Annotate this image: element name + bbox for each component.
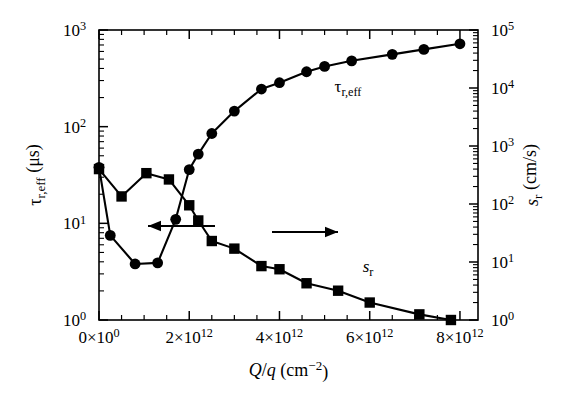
data-point-tau-9 bbox=[256, 84, 267, 95]
data-point-tau-15 bbox=[418, 44, 429, 55]
data-point-sr-6 bbox=[207, 236, 217, 246]
data-point-sr-1 bbox=[116, 191, 126, 201]
data-point-sr-12 bbox=[365, 297, 375, 307]
data-point-tau-16 bbox=[455, 38, 466, 49]
data-point-tau-2 bbox=[130, 259, 141, 270]
x-tick-label-0: 0×100 bbox=[78, 326, 119, 347]
data-point-tau-5 bbox=[184, 164, 195, 175]
data-point-sr-10 bbox=[301, 278, 311, 288]
data-point-tau-10 bbox=[274, 77, 285, 88]
data-point-tau-11 bbox=[301, 66, 312, 77]
data-point-tau-3 bbox=[152, 257, 163, 268]
chart-svg: 0×1002×10124×10126×10128×1012 1001011021… bbox=[0, 0, 570, 405]
data-point-sr-14 bbox=[446, 315, 456, 325]
data-point-sr-3 bbox=[164, 174, 174, 184]
data-point-sr-11 bbox=[333, 286, 343, 296]
figure-container: 0×1002×10124×10126×10128×1012 1001011021… bbox=[0, 0, 570, 405]
data-point-sr-2 bbox=[141, 168, 151, 178]
data-point-tau-1 bbox=[105, 230, 116, 241]
data-point-tau-6 bbox=[193, 149, 204, 160]
data-point-tau-7 bbox=[206, 128, 217, 139]
data-point-sr-0 bbox=[94, 164, 104, 174]
data-point-sr-5 bbox=[193, 215, 203, 225]
data-point-tau-8 bbox=[229, 106, 240, 117]
data-point-sr-8 bbox=[256, 261, 266, 271]
data-point-tau-4 bbox=[170, 214, 181, 225]
data-point-sr-4 bbox=[184, 200, 194, 210]
data-point-tau-13 bbox=[346, 55, 357, 66]
data-point-tau-12 bbox=[319, 61, 330, 72]
data-point-tau-14 bbox=[387, 49, 398, 60]
data-point-sr-9 bbox=[274, 264, 284, 274]
data-point-sr-7 bbox=[229, 243, 239, 253]
data-point-sr-13 bbox=[414, 309, 424, 319]
